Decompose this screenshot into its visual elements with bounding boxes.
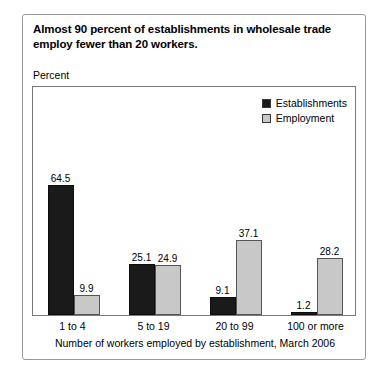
x-axis-title: Number of workers employed by establishm… <box>32 337 358 349</box>
bar-value-label: 24.9 <box>158 253 177 264</box>
bar-group: 1.228.2 <box>291 87 343 315</box>
x-tick-label-20-to-99: 20 to 99 <box>216 320 254 332</box>
bar-value-label: 9.9 <box>80 283 94 294</box>
bar-value-label: 37.1 <box>239 228 258 239</box>
bar-group: 9.137.1 <box>210 87 262 315</box>
bar-employment-1-to-4[interactable]: 9.9 <box>74 295 100 315</box>
x-axis-tick-labels: 1 to 45 to 1920 to 99100 or more <box>32 320 356 334</box>
x-tick-label-5-to-19: 5 to 19 <box>137 320 169 332</box>
bar-value-label: 9.1 <box>216 285 230 296</box>
plot-area: Establishments Employment 64.59.925.124.… <box>32 86 356 316</box>
bar-establishments-20-to-99[interactable]: 9.1 <box>210 297 236 315</box>
bar-establishments-5-to-19[interactable]: 25.1 <box>129 264 155 315</box>
x-tick-label-1-to-4: 1 to 4 <box>59 320 85 332</box>
bar-establishments-100-or-more[interactable]: 1.2 <box>291 312 317 315</box>
bar-group: 64.59.9 <box>48 87 100 315</box>
bar-value-label: 28.2 <box>320 246 339 257</box>
bar-value-label: 64.5 <box>51 173 70 184</box>
y-axis-label: Percent <box>33 69 69 81</box>
bar-employment-5-to-19[interactable]: 24.9 <box>155 265 181 315</box>
chart-card: Almost 90 percent of establishments in w… <box>22 14 366 360</box>
bar-group: 25.124.9 <box>129 87 181 315</box>
bar-establishments-1-to-4[interactable]: 64.5 <box>48 185 74 315</box>
bar-value-label: 25.1 <box>132 252 151 263</box>
bar-value-label: 1.2 <box>297 300 311 311</box>
bar-employment-100-or-more[interactable]: 28.2 <box>317 258 343 315</box>
bars-layer: 64.59.925.124.99.137.11.228.2 <box>33 87 355 315</box>
bar-employment-20-to-99[interactable]: 37.1 <box>236 240 262 315</box>
chart-title: Almost 90 percent of establishments in w… <box>33 22 359 52</box>
x-tick-label-100-or-more: 100 or more <box>287 320 344 332</box>
